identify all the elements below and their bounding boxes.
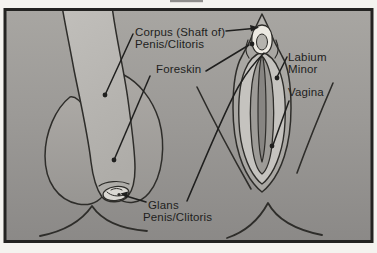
- label-glans-line1: Glans: [143, 199, 212, 211]
- label-foreskin-text: Foreskin: [156, 63, 201, 75]
- label-labium-line1: Labium: [288, 51, 327, 63]
- pointer-dot-foreskin-hood: [250, 42, 255, 47]
- label-labium-minor: Labium Minor: [288, 51, 327, 75]
- pointer-dot-corpus: [103, 93, 108, 98]
- label-corpus-line1: Corpus (Shaft of): [135, 26, 225, 38]
- label-corpus-line2: Penis/Clitoris: [135, 38, 225, 50]
- label-glans: Glans Penis/Clitoris: [143, 199, 212, 223]
- pointer-dot-labium: [275, 76, 280, 81]
- label-glans-line2: Penis/Clitoris: [143, 211, 212, 223]
- label-vagina-text: Vagina: [288, 86, 324, 98]
- foreskin-tip-notch: [117, 193, 120, 196]
- label-labium-line2: Minor: [288, 63, 327, 75]
- vaginal-opening-slit: [258, 57, 266, 163]
- pointer-dot-vagina: [270, 144, 275, 149]
- page-crop-mark: [170, 0, 203, 2]
- glans-clitoris-center: [257, 34, 268, 50]
- label-foreskin: Foreskin: [156, 63, 201, 75]
- label-corpus: Corpus (Shaft of) Penis/Clitoris: [135, 26, 225, 50]
- pointer-dot-foreskin-penis: [112, 158, 117, 163]
- label-vagina: Vagina: [288, 86, 324, 98]
- figure-page: Corpus (Shaft of) Penis/Clitoris Foreski…: [0, 0, 377, 253]
